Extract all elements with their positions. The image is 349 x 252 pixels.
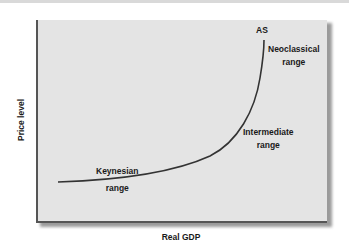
keynesian-label-line2: range [96,180,139,197]
as-label-text: AS [256,25,268,35]
x-axis-label: Real GDP [162,232,201,242]
as-curve [0,0,349,252]
as-label: AS [256,24,268,37]
intermediate-range-label: Intermediate range [243,126,294,152]
keynesian-range-label: Keynesian range [96,163,139,197]
neoclassical-range-label: Neoclassical range [268,43,320,69]
neoclassical-label-line1: Neoclassical [268,43,320,56]
y-axis-label: Price level [16,99,26,141]
intermediate-label-line1: Intermediate [243,126,294,139]
keynesian-label-line1: Keynesian [96,163,139,180]
neoclassical-label-line2: range [268,56,320,69]
intermediate-label-line2: range [243,139,294,152]
